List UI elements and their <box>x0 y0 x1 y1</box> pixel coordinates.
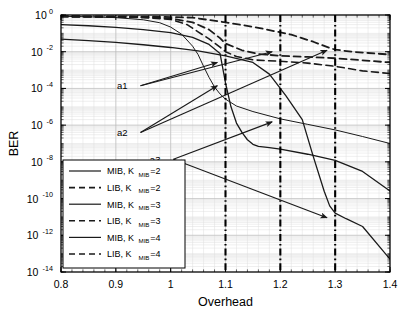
legend-item-value: =3 <box>150 216 160 226</box>
legend-item-label: MIB, K <box>107 233 134 243</box>
y-tick-mantissa: 10 <box>27 229 39 241</box>
legend-item-value: =2 <box>150 183 160 193</box>
y-tick-mantissa: 10 <box>31 46 43 58</box>
legend-item-subscript: MIB <box>139 171 150 178</box>
legend-item-value: =4 <box>150 249 160 259</box>
legend-item-subscript: MIB <box>139 254 150 261</box>
legend-item-subscript: MIB <box>139 187 150 194</box>
legend-item-label: LIB, K <box>107 249 132 259</box>
annotation-label: a2 <box>117 127 128 138</box>
legend-item-label: MIB, K <box>107 200 134 210</box>
x-tick-label: 0.8 <box>54 278 69 290</box>
legend-item-subscript: MIB <box>139 237 150 244</box>
y-tick-exponent: -6 <box>47 117 53 126</box>
legend: MIB, KMIB=2LIB, KMIB=2MIB, KMIB=3LIB, KM… <box>63 160 185 268</box>
y-tick-exponent: -2 <box>47 43 53 52</box>
chart-canvas: a1a2a3 0.80.911.11.21.31.4 10010-210-410… <box>0 0 407 323</box>
ber-overhead-chart-figure: a1a2a3 0.80.911.11.21.31.4 10010-210-410… <box>0 0 407 323</box>
legend-item-label: LIB, K <box>107 216 132 226</box>
legend-item-value: =3 <box>150 200 160 210</box>
x-tick-label: 1 <box>168 278 174 290</box>
y-tick-mantissa: 10 <box>27 193 39 205</box>
x-tick-label: 1.2 <box>273 278 288 290</box>
legend-item-value: =2 <box>150 166 160 176</box>
y-tick-exponent: -14 <box>43 264 53 273</box>
y-tick-mantissa: 10 <box>35 9 47 21</box>
legend-item-label: MIB, K <box>107 166 134 176</box>
y-axis-label: BER <box>7 131 21 157</box>
legend-item-label: LIB, K <box>107 183 132 193</box>
y-tick-mantissa: 10 <box>27 266 39 278</box>
y-tick-mantissa: 10 <box>31 156 43 168</box>
x-axis-label: Overhead <box>198 295 253 309</box>
y-tick-mantissa: 10 <box>31 82 43 94</box>
annotation-label: a1 <box>117 80 128 91</box>
y-tick-exponent: -4 <box>47 80 53 89</box>
y-tick-mantissa: 10 <box>31 119 43 131</box>
y-tick-exponent: -12 <box>43 227 53 236</box>
y-tick-exponent: -10 <box>43 190 53 199</box>
legend-item-subscript: MIB <box>139 204 150 211</box>
x-tick-label: 1.1 <box>218 278 233 290</box>
legend-item-subscript: MIB <box>139 221 150 228</box>
legend-item-value: =4 <box>150 233 160 243</box>
x-tick-label: 1.3 <box>328 278 343 290</box>
y-tick-exponent: -8 <box>47 153 53 162</box>
x-tick-label: 0.9 <box>109 278 124 290</box>
y-tick-exponent: 0 <box>49 7 53 16</box>
x-tick-label: 1.4 <box>383 278 398 290</box>
